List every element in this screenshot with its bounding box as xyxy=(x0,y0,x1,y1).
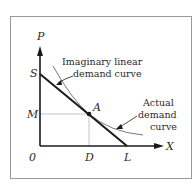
point-s-label: S xyxy=(30,67,38,80)
point-a-label: A xyxy=(92,101,101,114)
actual-annotation-line3: curve xyxy=(150,121,177,132)
point-a-marker xyxy=(87,112,92,117)
linear-demand-curve xyxy=(40,74,127,146)
point-d-label: D xyxy=(84,151,94,164)
linear-annotation-line1: Imaginary linear xyxy=(62,56,143,67)
point-l-label: L xyxy=(123,151,131,164)
x-axis-arrow-icon xyxy=(154,143,164,149)
y-axis-label: P xyxy=(36,30,45,43)
origin-label: 0 xyxy=(29,151,36,164)
linear-pointer-arrow-icon xyxy=(56,80,62,85)
demand-curve-diagram: P X 0 S M A D L Imaginary linear demand … xyxy=(0,0,196,192)
actual-pointer xyxy=(120,116,137,127)
point-m-label: M xyxy=(26,108,39,121)
actual-annotation-line2: demand xyxy=(138,109,177,120)
linear-annotation-line2: demand curve xyxy=(73,68,142,79)
actual-annotation-line1: Actual xyxy=(142,97,174,108)
x-axis-label: X xyxy=(165,140,175,153)
y-axis-arrow-icon xyxy=(37,46,43,56)
actual-pointer-arrow-icon xyxy=(116,124,123,129)
